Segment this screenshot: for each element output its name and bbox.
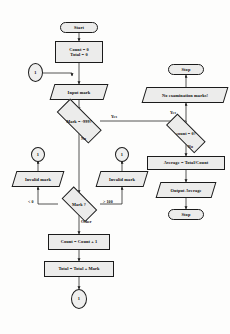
edge-label-sentinel-no: No [81,136,86,141]
connector-mid-1[interactable]: 1 [115,147,129,162]
connector-low-left-1[interactable]: 1 [31,147,45,162]
node-stop-top[interactable]: Stop [168,64,204,75]
node-initialize-line2: Total = 0 [70,52,87,58]
node-start[interactable]: Start [60,22,98,33]
node-invalid-mark-left-label: Invalid mark [14,171,62,187]
node-stop-bottom-label: Stop [182,212,191,218]
edge-label-range-other: Other [81,219,92,224]
decision-count-zero-label: count = 0? [158,122,214,144]
edge-label-count-no: No [188,144,193,149]
node-invalid-mark-left[interactable]: Invalid mark [14,171,62,187]
node-total-add[interactable]: Total = Total + Mark [44,261,114,277]
node-initialize[interactable]: Count = 0 Total = 0 [55,41,103,63]
decision-count-zero[interactable]: count = 0? [158,122,214,144]
node-average[interactable]: Average = Total/Count [147,156,225,170]
node-input-mark[interactable]: Input mark [52,84,106,100]
edge-label-sentinel-yes: Yes [111,114,117,119]
node-stop-bottom[interactable]: Stop [168,209,204,220]
node-invalid-mark-right-label: Invalid mark [98,171,146,187]
connector-low-left-1-label: 1 [37,152,39,158]
edge-label-range-low: < 0 [28,199,34,204]
node-count-increment-label: Count = Count + 1 [61,239,98,245]
node-start-label: Start [74,25,84,31]
node-no-examination-marks[interactable]: No examination marks! [144,87,226,103]
node-count-increment[interactable]: Count = Count + 1 [48,234,110,250]
connector-bottom-1[interactable]: 1 [71,289,87,309]
connector-left-1[interactable]: 1 [28,63,43,82]
decision-mark-range-label: Mark ? [56,192,102,216]
connector-left-1-label: 1 [34,70,36,76]
edge-label-range-high: > 100 [103,199,113,204]
connector-mid-1-label: 1 [121,152,123,158]
node-input-mark-label: Input mark [52,84,106,100]
node-average-label: Average = Total/Count [164,160,209,166]
node-stop-top-label: Stop [182,67,191,73]
decision-sentinel[interactable]: Mark = -999? [48,108,110,134]
node-output-average[interactable]: Output Average [158,182,214,198]
edge-label-count-yes: Yes [170,110,176,115]
decision-sentinel-label: Mark = -999? [48,108,110,134]
node-invalid-mark-right[interactable]: Invalid mark [98,171,146,187]
node-output-average-label: Output Average [158,182,214,198]
node-no-examination-marks-label: No examination marks! [144,87,226,103]
connector-bottom-1-label: 1 [78,296,80,302]
decision-mark-range[interactable]: Mark ? [56,192,102,216]
flowchart-canvas: Start Count = 0 Total = 0 1 Input mark M… [0,0,230,334]
node-total-add-label: Total = Total + Mark [58,266,99,272]
